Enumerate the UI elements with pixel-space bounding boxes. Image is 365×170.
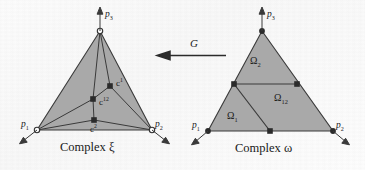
mapping-label: G bbox=[190, 38, 198, 49]
right-p2-axis-arrow bbox=[333, 131, 350, 145]
right-complex-caption: Complex ω bbox=[235, 142, 292, 155]
left-vertex-label-p2: p2 bbox=[155, 120, 163, 131]
right-p3-axis-arrow bbox=[259, 7, 265, 31]
diagram-canvas bbox=[0, 0, 365, 170]
right-vertex-label-p2: p2 bbox=[336, 121, 344, 132]
right-p1-axis-arrow bbox=[192, 131, 209, 145]
right-region-label-omega12: Ω12 bbox=[274, 93, 288, 105]
mapping-arrow bbox=[157, 51, 226, 59]
left-p3-axis-arrow bbox=[97, 7, 103, 31]
left-node-label-c12: c12 bbox=[99, 97, 109, 107]
left-vertex-label-p3: p3 bbox=[105, 10, 113, 21]
left-node-label-c1: c1 bbox=[116, 78, 123, 88]
right-vertex-label-p1: p1 bbox=[192, 121, 200, 132]
figure-container: p1 p2 p3 c1 c12 c2 Complex ξ G p1 p2 p3 … bbox=[0, 0, 365, 170]
right-region-label-omega1: Ω1 bbox=[227, 111, 238, 123]
left-p2-axis-arrow bbox=[152, 130, 170, 144]
left-complex-caption: Complex ξ bbox=[60, 141, 115, 154]
right-region-label-omega2: Ω2 bbox=[250, 56, 261, 68]
right-vertex-label-p3: p3 bbox=[267, 10, 275, 21]
left-vertex-label-p1: p1 bbox=[21, 120, 29, 131]
left-p1-axis-arrow bbox=[20, 130, 38, 144]
left-node-label-c2: c2 bbox=[90, 124, 97, 134]
